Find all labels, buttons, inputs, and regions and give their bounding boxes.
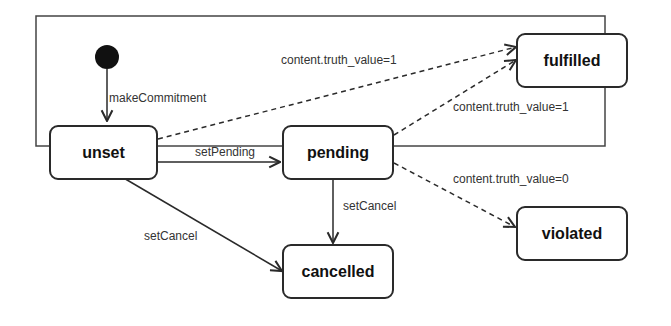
state-cancelled[interactable]: cancelled [282, 244, 394, 299]
transition-label-makecommitment: makeCommitment [109, 91, 206, 105]
transition-label-truth0-pending: content.truth_value=0 [453, 172, 569, 186]
transition-label-setpending: setPending [195, 145, 255, 159]
state-label: fulfilled [544, 52, 601, 70]
state-violated[interactable]: violated [516, 206, 628, 261]
state-label: cancelled [302, 263, 375, 281]
transition-label-truth1-unset: content.truth_value=1 [281, 53, 397, 67]
state-label: violated [542, 225, 602, 243]
initial-node [95, 45, 119, 69]
state-pending[interactable]: pending [282, 125, 394, 180]
state-unset[interactable]: unset [49, 125, 158, 180]
state-label: pending [307, 144, 369, 162]
state-label: unset [82, 144, 125, 162]
transition-label-setcancel-pending: setCancel [343, 199, 396, 213]
transition-label-truth1-pending: content.truth_value=1 [453, 100, 569, 114]
transition-label-setcancel-unset: setCancel [144, 229, 197, 243]
state-fulfilled[interactable]: fulfilled [516, 33, 628, 88]
